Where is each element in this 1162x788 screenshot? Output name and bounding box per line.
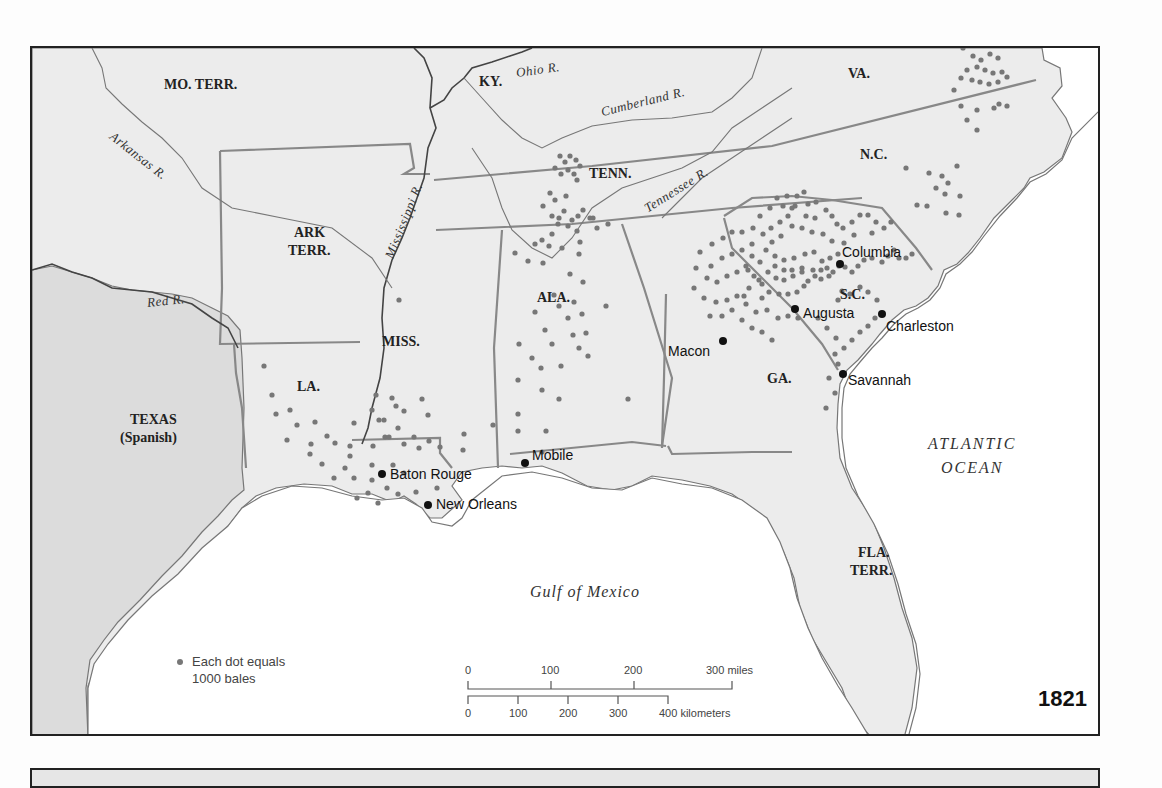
cotton-dot xyxy=(812,215,817,220)
cotton-dot xyxy=(982,67,987,72)
cotton-dot xyxy=(576,251,581,256)
cotton-dot xyxy=(764,307,769,312)
cotton-dot xyxy=(729,251,734,256)
cotton-dot xyxy=(785,213,790,218)
cotton-dot xyxy=(789,205,794,210)
label-tenn: TENN. xyxy=(589,165,631,182)
scale-miles-300: 300 miles xyxy=(706,664,753,676)
cotton-dot xyxy=(766,289,771,294)
label-savannah: Savannah xyxy=(848,372,911,388)
cotton-dot xyxy=(724,297,729,302)
cotton-dot xyxy=(942,191,947,196)
cotton-dot xyxy=(951,87,956,92)
cotton-dot xyxy=(869,230,874,235)
cotton-dot xyxy=(995,79,1000,84)
label-ky: KY. xyxy=(479,73,502,90)
cotton-dot xyxy=(794,289,799,294)
cotton-dot xyxy=(393,403,398,408)
cotton-dot xyxy=(547,190,552,195)
cotton-dot xyxy=(625,396,630,401)
cotton-dot xyxy=(739,229,744,234)
cotton-dot xyxy=(956,212,961,217)
cotton-dot xyxy=(605,221,610,226)
map-panel-1821: MO. TERR. KY. VA. TENN. N.C. ARK TERR. A… xyxy=(30,46,1100,736)
cotton-dot xyxy=(396,297,401,302)
label-ark-terr: TERR. xyxy=(288,242,330,259)
cotton-dot xyxy=(515,411,520,416)
cotton-dot xyxy=(549,231,554,236)
cotton-dot xyxy=(789,223,794,228)
cotton-dot xyxy=(741,293,746,298)
cotton-dot xyxy=(416,445,421,450)
cotton-dot xyxy=(826,375,831,380)
cotton-dot xyxy=(849,269,854,274)
cotton-dot xyxy=(332,440,337,445)
cotton-dot xyxy=(351,420,356,425)
cotton-dot xyxy=(757,213,762,218)
cotton-dot xyxy=(791,255,796,260)
cotton-dot xyxy=(999,69,1004,74)
cotton-dot xyxy=(784,193,789,198)
cotton-dot xyxy=(772,263,777,268)
legend-line-1: Each dot equals xyxy=(192,653,285,670)
cotton-dot xyxy=(577,163,582,168)
cotton-dot xyxy=(851,232,856,237)
cotton-dot xyxy=(857,212,862,217)
cotton-dot xyxy=(812,273,817,278)
cotton-dot xyxy=(558,363,563,368)
cotton-dot xyxy=(824,325,829,330)
cotton-dot xyxy=(903,255,908,260)
cotton-dot xyxy=(749,241,754,246)
scale-miles-100: 100 xyxy=(541,664,559,676)
cotton-dot xyxy=(799,225,804,230)
cotton-dot xyxy=(565,167,570,172)
label-charleston: Charleston xyxy=(886,318,954,334)
label-fla-terr: TERR. xyxy=(850,562,892,579)
label-fla: FLA. xyxy=(858,544,890,561)
cotton-dot xyxy=(287,407,292,412)
cotton-dot xyxy=(769,337,774,342)
cotton-dot xyxy=(926,170,931,175)
cotton-dot xyxy=(833,335,838,340)
cotton-dot xyxy=(539,387,544,392)
cotton-dot xyxy=(734,293,739,298)
cotton-dot xyxy=(835,361,840,366)
cotton-dot xyxy=(556,215,561,220)
cotton-dot xyxy=(849,219,854,224)
cotton-dot xyxy=(411,434,416,439)
cotton-dot xyxy=(570,332,575,337)
cotton-dot xyxy=(515,377,520,382)
cotton-dot xyxy=(978,57,983,62)
cotton-dot xyxy=(565,223,570,228)
cotton-dot xyxy=(789,267,794,272)
label-la: LA. xyxy=(297,378,320,395)
city-marker-icon xyxy=(378,470,386,478)
cotton-dot xyxy=(719,313,724,318)
scale-km-300: 300 xyxy=(609,707,627,719)
cotton-dot xyxy=(964,117,969,122)
cotton-dot xyxy=(347,443,352,448)
cotton-dot xyxy=(1004,74,1009,79)
cotton-dot xyxy=(575,213,580,218)
scale-miles-0: 0 xyxy=(465,664,471,676)
cotton-dot xyxy=(986,81,991,86)
cotton-dot xyxy=(780,203,785,208)
cotton-dot xyxy=(881,225,886,230)
cotton-dot xyxy=(775,315,780,320)
cotton-dot xyxy=(769,239,774,244)
cotton-dot xyxy=(369,477,374,482)
cotton-dot xyxy=(577,239,582,244)
cotton-dot xyxy=(964,67,969,72)
cotton-dot xyxy=(395,491,400,496)
cotton-dot xyxy=(849,337,854,342)
cotton-dot xyxy=(774,195,779,200)
cotton-dot xyxy=(939,173,944,178)
cotton-dot xyxy=(556,396,561,401)
label-mobile: Mobile xyxy=(532,447,573,463)
cotton-dot xyxy=(873,219,878,224)
cotton-dot xyxy=(707,313,712,318)
cotton-dot xyxy=(768,225,773,230)
cotton-dot xyxy=(580,279,585,284)
cotton-dot xyxy=(312,419,317,424)
legend-dot-icon xyxy=(177,659,183,665)
